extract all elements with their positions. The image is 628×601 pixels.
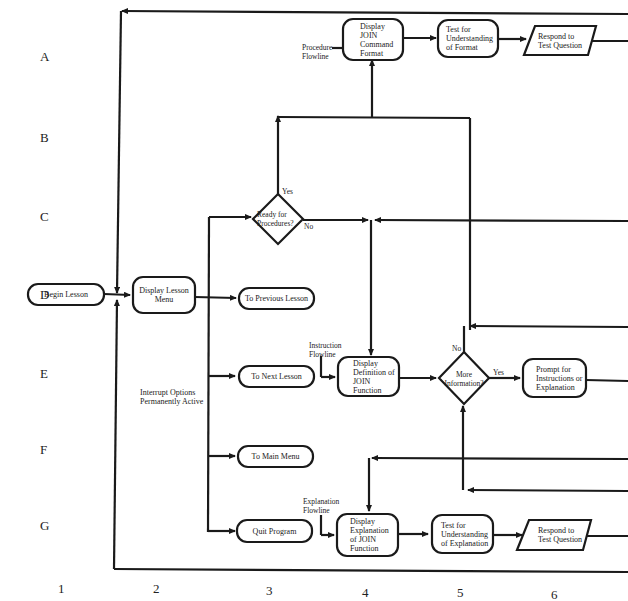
instruction-flowline-label: Instruction Flowline bbox=[309, 341, 355, 359]
col-label-1: 1 bbox=[58, 581, 65, 597]
interrupt-options-note: Interrupt Options Permanently Active bbox=[140, 388, 212, 406]
to-next-lesson-label: To Next Lesson bbox=[239, 366, 314, 387]
ready-for-procedures-label: Ready for Procedures? bbox=[257, 208, 301, 230]
display-definition-join-label: Display Definition of JOIN Function bbox=[353, 357, 397, 396]
col-label-2: 2 bbox=[153, 581, 160, 597]
row-label-e: E bbox=[40, 366, 48, 382]
row-label-g: G bbox=[40, 518, 49, 534]
row-label-a: A bbox=[40, 49, 49, 65]
col-label-4: 4 bbox=[362, 585, 369, 601]
row-label-c: C bbox=[40, 209, 49, 225]
display-lesson-menu-label: Display Lesson Menu bbox=[135, 277, 193, 313]
row-label-b: B bbox=[40, 130, 49, 146]
more-information-label: More Information? bbox=[443, 368, 485, 390]
procedure-flowline-label: Procedure Flowline bbox=[302, 43, 344, 61]
respond-test-question-top-label: Respond to Test Question bbox=[538, 26, 584, 55]
prompt-instructions-label: Prompt for Instructions or Explanation bbox=[536, 359, 586, 397]
ready-yes-label: Yes bbox=[282, 187, 293, 196]
menu-branch-bus bbox=[208, 217, 209, 532]
test-understanding-format-label: Test for Understanding of Format bbox=[446, 20, 496, 57]
to-main-menu-label: To Main Menu bbox=[238, 446, 313, 467]
col-label-6: 6 bbox=[551, 587, 558, 601]
display-explanation-join-label: Display Explanation of JOIN Function bbox=[350, 514, 396, 556]
begin-to-menu-flow bbox=[104, 294, 130, 295]
to-previous-lesson-label: To Previous Lesson bbox=[239, 288, 314, 309]
quit-program-label: Quit Program bbox=[237, 520, 312, 542]
test-understanding-explanation-label: Test for Understanding of Explanation bbox=[441, 515, 493, 553]
col-label-5: 5 bbox=[457, 585, 464, 601]
respond-test-question-bottom-label: Respond to Test Question bbox=[538, 520, 584, 550]
menu-to-previous-flow bbox=[195, 297, 236, 298]
col-label-3: 3 bbox=[266, 583, 273, 599]
begin-lesson-label: Begin Lesson bbox=[28, 284, 104, 305]
more-yes-label: Yes bbox=[493, 368, 504, 377]
explanation-flowline-label: Explanation Flowline bbox=[303, 497, 353, 515]
row-label-f: F bbox=[40, 442, 47, 458]
more-no-label: No bbox=[452, 344, 461, 353]
ready-no-label: No bbox=[304, 222, 313, 231]
display-join-command-format-label: Display JOIN Command Format bbox=[360, 19, 402, 60]
